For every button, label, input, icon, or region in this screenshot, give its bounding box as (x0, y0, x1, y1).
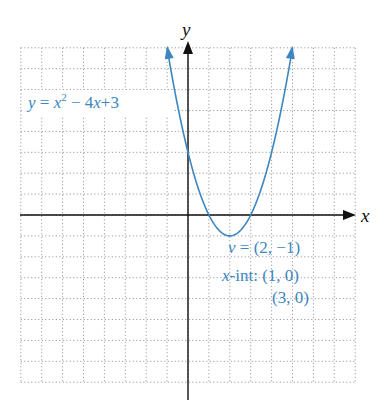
equation-plus-3: +3 (101, 93, 119, 112)
xint-first: -int: (1, 0) (230, 266, 299, 285)
curve-arrow-left-icon (165, 46, 174, 60)
y-axis-label: y (180, 19, 191, 40)
vertex-label: v = (2, −1) (228, 238, 300, 257)
vertex-coords: = (2, −1) (236, 238, 301, 257)
parabola-graph: x y y = x2 − 4x+3 v = (2, −1) x-int: (1,… (0, 0, 385, 408)
x-intercept-second: (3, 0) (272, 288, 309, 307)
y-axis-arrow-icon (183, 41, 193, 54)
x-intercept-label: x-int: (1, 0) (221, 266, 299, 285)
x-axis-arrow-icon (343, 210, 356, 220)
equation-label: y = x2 − 4x+3 (26, 91, 119, 112)
equation-equals: = (36, 93, 54, 112)
equation-y: y (26, 93, 36, 112)
x-axis-label: x (360, 205, 370, 226)
equation-minus-4: − 4 (67, 93, 94, 112)
